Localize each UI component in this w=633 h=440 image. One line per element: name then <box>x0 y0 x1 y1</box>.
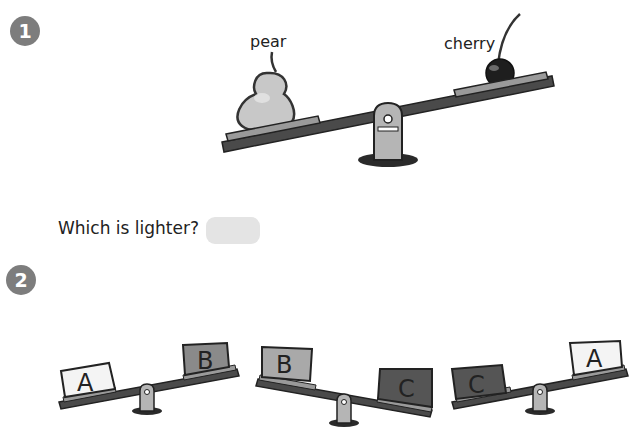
svg-text:B: B <box>276 351 292 379</box>
svg-text:C: C <box>468 371 485 399</box>
question-prompt: Which is lighter? <box>58 218 199 238</box>
svg-text:A: A <box>586 345 603 373</box>
box-c: C <box>452 365 506 399</box>
seesaw-a-b: A B <box>55 335 255 425</box>
box-b: B <box>262 347 312 381</box>
svg-text:B: B <box>197 347 213 375</box>
question-number-badge: 2 <box>6 265 36 295</box>
answer-input-box[interactable] <box>206 217 260 244</box>
svg-text:A: A <box>77 369 94 397</box>
seesaw-c-a: C A <box>448 335 633 425</box>
seesaw-b-c: B C <box>252 335 452 435</box>
svg-text:C: C <box>398 375 415 403</box>
seesaw-1-illustration <box>0 0 627 200</box>
